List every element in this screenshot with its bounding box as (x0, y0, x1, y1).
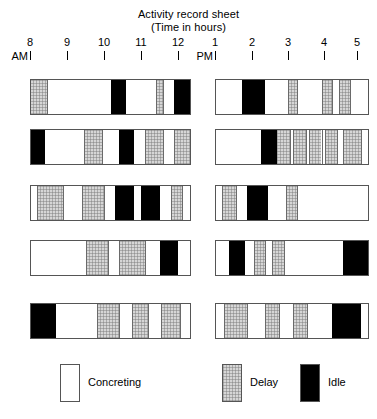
segment-divider (37, 186, 38, 220)
segment-divider (63, 186, 64, 220)
segment-concreting (134, 186, 141, 220)
segment-concreting (215, 186, 222, 220)
segment-delay (97, 304, 119, 338)
segment-divider (247, 304, 248, 338)
segment-concreting (284, 241, 343, 275)
segment-divider (337, 130, 338, 164)
segment-divider (163, 130, 164, 164)
segment-concreting (236, 186, 247, 220)
segment-divider (339, 80, 340, 114)
segment-divider (309, 130, 310, 164)
segment-concreting (63, 186, 82, 220)
segment-concreting (215, 130, 261, 164)
segment-divider (119, 304, 120, 338)
segment-concreting (30, 186, 37, 220)
segment-concreting (47, 80, 112, 114)
segment-divider (265, 241, 266, 275)
segment-divider (293, 304, 294, 338)
segment-divider (163, 80, 164, 114)
segment-delay (119, 241, 145, 275)
segment-concreting (45, 130, 84, 164)
activity-bar-row4-pm (215, 240, 369, 276)
segment-divider (279, 304, 280, 338)
segment-delay (224, 304, 247, 338)
segment-idle (343, 241, 370, 275)
segment-concreting (265, 241, 272, 275)
segment-concreting (163, 80, 174, 114)
segment-divider (132, 304, 133, 338)
segment-divider (254, 241, 255, 275)
segment-delay (145, 130, 164, 164)
segment-concreting (265, 80, 288, 114)
segment-idle (247, 186, 268, 220)
segment-divider (145, 241, 146, 275)
segment-delay (161, 304, 180, 338)
segment-idle (30, 304, 56, 338)
segment-delay (293, 130, 305, 164)
activity-bar-row5-pm (215, 303, 369, 339)
segment-idle (332, 304, 360, 338)
segment-divider (236, 186, 237, 220)
activity-bar-row3-pm (215, 185, 369, 221)
segment-concreting (350, 80, 370, 114)
segment-divider (343, 130, 344, 164)
segment-delay (339, 80, 350, 114)
activity-record-sheet-figure: Activity record sheet (Time in hours) AM… (0, 0, 377, 419)
segment-divider (47, 80, 48, 114)
segment-concreting (30, 241, 86, 275)
activity-bar-row3-am (30, 185, 191, 221)
segment-divider (148, 304, 149, 338)
segment-delay (322, 80, 333, 114)
segment-divider (97, 304, 98, 338)
segment-divider (293, 130, 294, 164)
segment-divider (265, 304, 266, 338)
segment-divider (332, 80, 333, 114)
segment-concreting (307, 304, 332, 338)
segment-delay (156, 80, 163, 114)
segment-divider (161, 304, 162, 338)
activity-bar-row1-pm (215, 79, 369, 115)
segment-idle (115, 186, 134, 220)
segment-idle (111, 80, 126, 114)
segment-concreting (178, 241, 191, 275)
segment-idle (242, 80, 265, 114)
activity-bar-row1-am (30, 79, 191, 115)
segment-concreting (182, 186, 191, 220)
segment-idle (141, 186, 160, 220)
segment-delay (37, 186, 63, 220)
segment-concreting (361, 130, 370, 164)
segment-delay (325, 130, 337, 164)
segment-divider (182, 186, 183, 220)
segment-divider (82, 186, 83, 220)
segment-divider (180, 304, 181, 338)
segment-divider (290, 130, 291, 164)
segment-divider (224, 304, 225, 338)
segment-divider (288, 80, 289, 114)
segment-idle (30, 130, 45, 164)
segment-delay (293, 304, 307, 338)
segment-delay (86, 241, 108, 275)
segment-concreting (126, 80, 156, 114)
segment-divider (174, 130, 175, 164)
segment-divider (84, 130, 85, 164)
segment-divider (145, 130, 146, 164)
segment-concreting (148, 304, 161, 338)
segment-concreting (160, 186, 171, 220)
activity-bar-row2-pm (215, 129, 369, 165)
segment-divider (104, 186, 105, 220)
segment-divider (297, 186, 298, 220)
segment-idle (229, 241, 245, 275)
activity-bar-row4-am (30, 240, 191, 276)
segment-delay (84, 130, 103, 164)
activity-bar-row2-am (30, 129, 191, 165)
segment-concreting (108, 241, 119, 275)
segment-delay (174, 130, 191, 164)
activity-bar-rows (0, 0, 377, 419)
segment-concreting (247, 304, 265, 338)
segment-concreting (361, 304, 370, 338)
legend-label-delay: Delay (250, 376, 278, 389)
segment-delay (286, 186, 297, 220)
segment-concreting (215, 241, 229, 275)
segment-concreting (215, 80, 242, 114)
segment-divider (297, 80, 298, 114)
